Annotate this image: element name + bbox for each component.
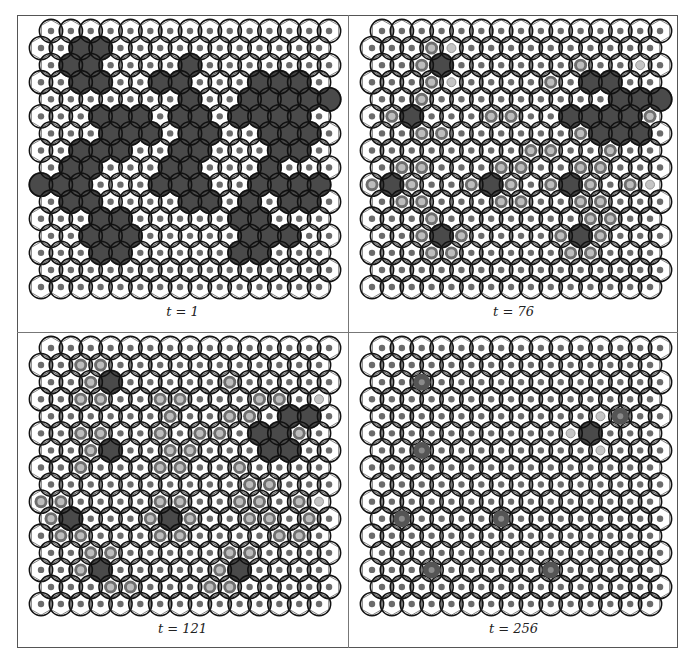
cell: [68, 379, 74, 385]
cell: [538, 199, 544, 205]
cell: [538, 447, 544, 453]
cell: [657, 379, 663, 385]
cell: [58, 147, 64, 153]
cell: [538, 164, 544, 170]
cell: [157, 147, 163, 153]
cell: [326, 584, 332, 590]
cell: [389, 362, 395, 368]
cell: [236, 45, 242, 51]
cell: [84, 376, 97, 389]
cell: [508, 498, 514, 504]
cell: [538, 584, 544, 590]
cell: [627, 464, 633, 470]
cell: [107, 516, 113, 522]
cell: [147, 164, 153, 170]
cell: [315, 395, 324, 404]
cell: [223, 580, 236, 593]
cell: [637, 199, 643, 205]
cell: [389, 430, 395, 436]
cell: [217, 284, 223, 290]
cell: [276, 250, 282, 256]
cell: [657, 584, 663, 590]
cell: [594, 229, 607, 242]
cell: [58, 45, 64, 51]
cell: [587, 533, 593, 539]
cell: [296, 45, 302, 51]
cell: [627, 45, 633, 51]
cell: [207, 233, 213, 239]
cell: [167, 233, 173, 239]
cell: [68, 447, 74, 453]
cell: [587, 362, 593, 368]
cell: [538, 345, 544, 351]
cell: [154, 461, 167, 474]
cell: [564, 246, 577, 259]
cell: [246, 267, 252, 273]
cell: [88, 413, 94, 419]
cell: [379, 267, 385, 273]
cell: [617, 199, 623, 205]
cell: [637, 584, 643, 590]
cell: [243, 546, 256, 559]
cell: [266, 62, 272, 68]
panel-caption-t121: t = 121: [17, 621, 348, 636]
cell: [438, 481, 444, 487]
cell: [174, 393, 187, 406]
cell: [157, 250, 163, 256]
cell: [326, 28, 332, 34]
cell: [177, 45, 183, 51]
cell: [657, 199, 663, 205]
cell: [117, 601, 123, 607]
cell: [458, 550, 464, 556]
cell: [273, 393, 286, 406]
cell: [448, 567, 454, 573]
cell: [567, 396, 573, 402]
cell: [558, 550, 564, 556]
cell: [478, 345, 484, 351]
cell: [379, 233, 385, 239]
cell: [296, 362, 302, 368]
cell: [558, 164, 564, 170]
cell: [423, 561, 440, 578]
cell: [627, 601, 633, 607]
cell: [468, 284, 474, 290]
cell: [493, 510, 510, 527]
cell: [508, 567, 514, 573]
cell: [147, 447, 153, 453]
cell: [246, 164, 252, 170]
cell: [428, 396, 434, 402]
cell: [177, 362, 183, 368]
cell: [147, 233, 153, 239]
cell: [174, 495, 187, 508]
cell: [88, 96, 94, 102]
cell: [379, 199, 385, 205]
cell: [518, 96, 524, 102]
cell: [577, 96, 583, 102]
cell: [528, 567, 534, 573]
cell: [154, 427, 167, 440]
cell: [253, 393, 266, 406]
cell: [604, 212, 617, 225]
cell: [197, 396, 203, 402]
cell: [276, 464, 282, 470]
cell: [296, 464, 302, 470]
cell: [627, 430, 633, 436]
cell: [428, 430, 434, 436]
cell: [389, 250, 395, 256]
cell: [107, 164, 113, 170]
cell: [117, 498, 123, 504]
hex-grid-t256: [348, 332, 679, 649]
cell: [647, 45, 653, 51]
cell: [518, 413, 524, 419]
cell: [538, 516, 544, 522]
cell: [246, 62, 252, 68]
cell: [468, 533, 474, 539]
cell: [488, 396, 494, 402]
cell: [508, 284, 514, 290]
cell: [207, 413, 213, 419]
cell: [379, 481, 385, 487]
cell: [117, 45, 123, 51]
cell: [58, 79, 64, 85]
cell: [528, 250, 534, 256]
cell: [217, 216, 223, 222]
